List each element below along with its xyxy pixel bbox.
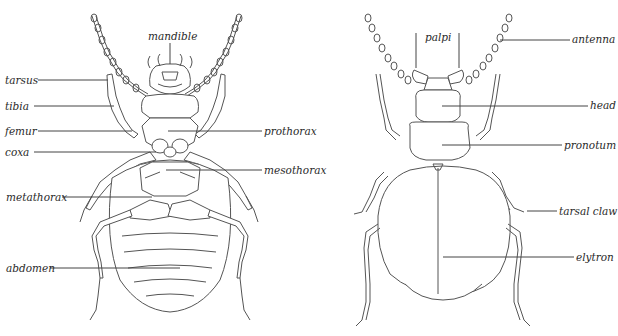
dorsal-beetle [354, 14, 530, 326]
ventral-beetle [80, 14, 258, 320]
label-elytron: elytron [576, 251, 614, 263]
label-pronotum: pronotum [564, 139, 616, 151]
label-tarsal-claw: tarsal claw [559, 205, 617, 217]
label-metathorax: metathorax [6, 191, 67, 203]
label-mesothorax: mesothorax [264, 164, 326, 176]
label-coxa: coxa [5, 146, 29, 158]
label-head: head [590, 99, 616, 111]
label-prothorax: prothorax [264, 125, 317, 137]
label-mandible: mandible [148, 30, 197, 42]
label-palpi: palpi [425, 31, 451, 43]
label-tarsus: tarsus [5, 74, 38, 86]
label-femur: femur [5, 125, 37, 137]
label-abdomen: abdomen [6, 262, 55, 274]
label-antenna: antenna [572, 33, 615, 45]
beetle-anatomy-diagram: mandible tarsus tibia femur coxa prothor… [0, 0, 618, 336]
label-tibia: tibia [5, 100, 29, 112]
